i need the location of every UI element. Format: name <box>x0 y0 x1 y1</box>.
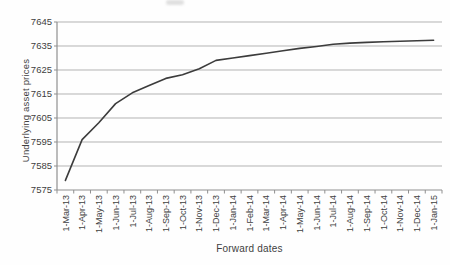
x-tick-label: 1-Jan-15 <box>429 195 439 231</box>
x-tick-label: 1-Oct-13 <box>178 195 188 230</box>
x-tick-label: 1-Jun-14 <box>312 195 322 231</box>
x-tick-label: 1-Jan-14 <box>228 195 238 231</box>
x-tick-label: 1-Mar-13 <box>61 195 71 232</box>
x-tick-label: 1-Jul-13 <box>128 195 138 228</box>
x-tick-label: 1-Nov-14 <box>395 195 405 232</box>
y-axis-title: Underlying asset prices <box>20 46 31 176</box>
forward-prices-line-chart: 757575857595760576157625763576451-Mar-13… <box>0 0 450 265</box>
y-tick-label: 7595 <box>31 136 52 147</box>
x-tick-label: 1-Nov-13 <box>194 195 204 232</box>
x-tick-label: 1-Apr-14 <box>278 195 288 230</box>
x-tick-label: 1-Aug-14 <box>345 195 355 232</box>
x-tick-label: 1-Sep-13 <box>161 195 171 232</box>
y-tick-label: 7625 <box>31 64 52 75</box>
x-tick-label: 1-Aug-13 <box>144 195 154 232</box>
y-tick-label: 7615 <box>31 88 52 99</box>
x-tick-label: 1-Oct-14 <box>379 195 389 230</box>
x-tick-label: 1-Sep-14 <box>362 195 372 232</box>
x-tick-label: 1-Jun-13 <box>111 195 121 231</box>
y-tick-label: 7575 <box>31 184 52 195</box>
x-tick-label: 1-Dec-13 <box>211 195 221 232</box>
x-tick-label: 1-May-13 <box>94 195 104 233</box>
x-tick-label: 1-Dec-14 <box>412 195 422 232</box>
x-tick-label: 1-Mar-14 <box>261 195 271 232</box>
y-tick-label: 7635 <box>31 40 52 51</box>
x-tick-label: 1-Jul-14 <box>328 195 338 228</box>
price-curve-line <box>65 40 433 180</box>
x-tick-label: 1-Apr-13 <box>77 195 87 230</box>
y-tick-label: 7605 <box>31 112 52 123</box>
y-tick-label: 7585 <box>31 160 52 171</box>
x-axis-title: Forward dates <box>57 243 442 254</box>
plot-area: 757575857595760576157625763576451-Mar-13… <box>0 0 450 265</box>
x-tick-label: 1-May-14 <box>295 195 305 233</box>
x-tick-label: 1-Feb-14 <box>245 195 255 232</box>
y-tick-label: 7645 <box>31 16 52 27</box>
